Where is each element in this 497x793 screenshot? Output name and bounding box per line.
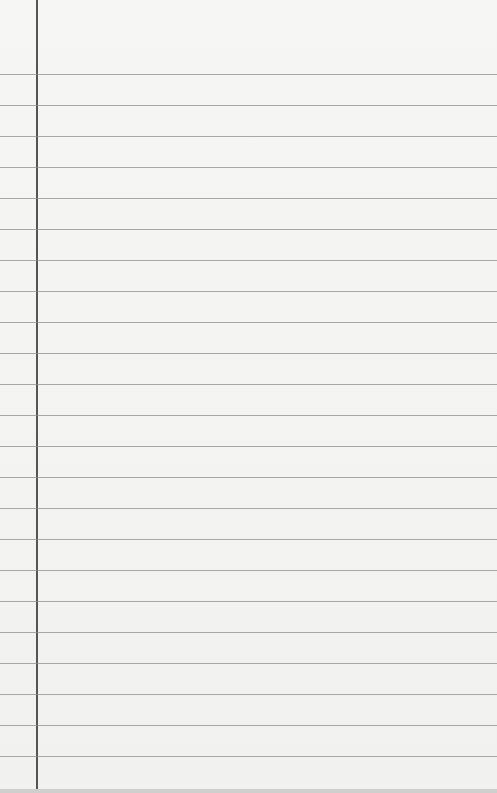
ruled-line [0, 136, 497, 137]
ruled-line [0, 384, 497, 385]
lined-paper [0, 0, 497, 793]
ruled-line [0, 415, 497, 416]
ruled-line [0, 167, 497, 168]
ruled-line [0, 105, 497, 106]
ruled-line [0, 570, 497, 571]
ruled-line [0, 74, 497, 75]
ruled-line [0, 229, 497, 230]
paper-bottom-edge [0, 789, 497, 793]
ruled-line [0, 508, 497, 509]
ruled-line [0, 260, 497, 261]
ruled-line [0, 322, 497, 323]
ruled-line [0, 539, 497, 540]
ruled-line [0, 291, 497, 292]
ruled-line [0, 198, 497, 199]
ruled-line [0, 725, 497, 726]
ruled-line [0, 632, 497, 633]
ruled-line [0, 756, 497, 757]
ruled-line [0, 663, 497, 664]
ruled-line [0, 446, 497, 447]
ruled-line [0, 601, 497, 602]
ruled-line [0, 477, 497, 478]
margin-line [36, 0, 38, 793]
ruled-line [0, 353, 497, 354]
ruled-line [0, 694, 497, 695]
